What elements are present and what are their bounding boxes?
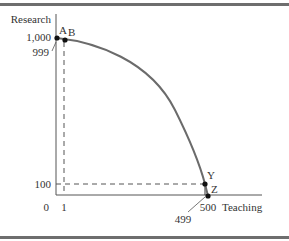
y-tick-1000: 1,000: [26, 31, 51, 43]
bottom-rule: [0, 236, 289, 239]
y-tick-100: 100: [35, 178, 52, 190]
x-tick-500: 500: [200, 201, 217, 213]
point-b-label: B: [68, 26, 75, 38]
point-z-label: Z: [211, 183, 218, 195]
leader-999: [52, 42, 56, 51]
point-z: [205, 193, 210, 198]
point-a: [54, 35, 59, 40]
origin-label: 0: [44, 201, 50, 213]
frontier-curve: [57, 38, 208, 196]
point-y: [202, 181, 207, 186]
point-a-label: A: [59, 24, 67, 36]
ppf-chart: Research 1,000 999 100 0 1 499 500 Teach…: [0, 0, 289, 241]
x-tick-499: 499: [175, 213, 192, 225]
x-axis-label: Teaching: [222, 201, 263, 213]
point-b: [62, 37, 67, 42]
point-y-label: Y: [207, 169, 215, 181]
y-axis-label: Research: [11, 13, 52, 25]
x-tick-1: 1: [61, 201, 67, 213]
y-tick-999: 999: [33, 46, 50, 58]
